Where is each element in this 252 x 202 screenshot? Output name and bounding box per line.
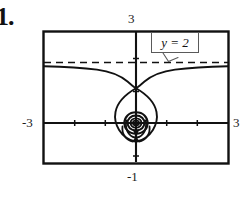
axis-label-right: 3 [233, 116, 240, 129]
axis-label-top: 3 [128, 12, 135, 25]
figure-root: 1. [0, 0, 252, 202]
asymptote-callout: y = 2 [151, 32, 199, 53]
axis-label-left: -3 [22, 116, 33, 129]
graph-canvas [0, 0, 252, 202]
axis-label-bottom: -1 [127, 170, 138, 183]
calculator-graph: y = 2 3 -1 -3 3 [0, 0, 252, 202]
asymptote-callout-label: y = 2 [161, 35, 189, 51]
